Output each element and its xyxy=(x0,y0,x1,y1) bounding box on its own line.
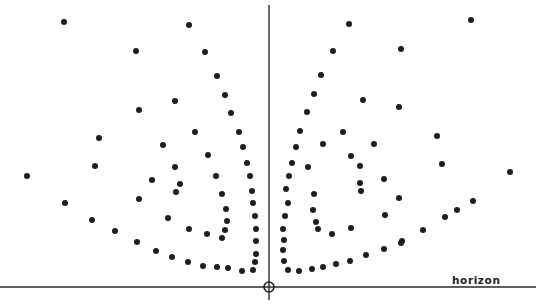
point-dot xyxy=(348,225,354,231)
point-dot xyxy=(252,213,258,219)
point-dot xyxy=(172,98,178,104)
point-dot xyxy=(333,261,339,267)
point-dot xyxy=(200,263,206,269)
point-dot xyxy=(253,226,259,232)
point-dot xyxy=(296,268,302,274)
point-dot xyxy=(381,176,387,182)
point-dot xyxy=(470,198,476,204)
point-dot xyxy=(305,164,311,170)
point-dot xyxy=(281,258,287,264)
point-dot xyxy=(282,213,288,219)
point-dot xyxy=(177,181,183,187)
point-dot xyxy=(396,104,402,110)
point-dot xyxy=(239,268,245,274)
point-dot xyxy=(363,252,369,258)
point-dot xyxy=(202,49,208,55)
point-dot xyxy=(96,135,102,141)
point-dot xyxy=(24,173,30,179)
point-dot xyxy=(398,46,404,52)
point-dot xyxy=(330,48,336,54)
point-dot xyxy=(315,226,321,232)
point-dot xyxy=(249,188,255,194)
point-dot xyxy=(286,173,292,179)
point-dot xyxy=(228,110,234,116)
point-dot xyxy=(247,173,253,179)
horizon-label: horizon xyxy=(452,274,500,286)
point-dot xyxy=(253,251,259,257)
point-dot xyxy=(280,226,286,232)
point-dot xyxy=(357,180,363,186)
point-dot xyxy=(223,206,229,212)
point-dot xyxy=(61,19,67,25)
point-dot xyxy=(153,248,159,254)
point-dot xyxy=(250,267,256,273)
point-dot xyxy=(89,217,95,223)
point-dot xyxy=(136,196,142,202)
point-dot xyxy=(219,191,225,197)
point-dot xyxy=(434,133,440,139)
dot-pattern-diagram: horizon xyxy=(0,0,548,305)
point-dot xyxy=(172,164,178,170)
point-dot xyxy=(134,239,140,245)
point-dot xyxy=(204,231,210,237)
point-dot xyxy=(281,237,287,243)
point-dot xyxy=(240,144,246,150)
point-dot xyxy=(213,173,219,179)
point-dot xyxy=(280,247,286,253)
point-dot xyxy=(285,267,291,273)
point-dot xyxy=(160,142,166,148)
point-dot xyxy=(283,186,289,192)
point-dot xyxy=(310,207,316,213)
point-dot xyxy=(186,226,192,232)
point-dot xyxy=(205,152,211,158)
point-dot xyxy=(382,212,388,218)
point-dot xyxy=(340,129,346,135)
point-dot xyxy=(313,219,319,225)
point-dot xyxy=(318,72,324,78)
point-dot xyxy=(253,238,259,244)
point-dot xyxy=(225,265,231,271)
point-dot xyxy=(224,218,230,224)
point-dot xyxy=(311,191,317,197)
point-dot xyxy=(289,160,295,166)
point-dot xyxy=(371,141,377,147)
point-dot xyxy=(112,228,118,234)
point-dot xyxy=(185,259,191,265)
point-dot xyxy=(222,92,228,98)
point-dot xyxy=(309,266,315,272)
point-dot xyxy=(285,200,291,206)
point-dot xyxy=(169,254,175,260)
point-dot xyxy=(252,259,258,265)
point-dot xyxy=(192,129,198,135)
point-dot xyxy=(92,163,98,169)
point-dot xyxy=(454,207,460,213)
point-dot xyxy=(439,161,445,167)
point-dot xyxy=(329,231,335,237)
point-dot xyxy=(173,189,179,195)
point-dot xyxy=(304,109,310,115)
point-dot xyxy=(136,107,142,113)
point-dot xyxy=(320,264,326,270)
point-dot xyxy=(346,21,352,27)
point-dot xyxy=(219,235,225,241)
point-dot xyxy=(62,200,68,206)
point-dot xyxy=(360,97,366,103)
point-dot xyxy=(186,22,192,28)
point-dot xyxy=(420,227,426,233)
point-dot xyxy=(311,91,317,97)
point-dot xyxy=(244,160,250,166)
point-dot xyxy=(347,258,353,264)
point-dot xyxy=(396,195,402,201)
point-dot xyxy=(165,215,171,221)
point-dot xyxy=(214,73,220,79)
point-dot xyxy=(214,264,220,270)
point-dot xyxy=(236,129,242,135)
point-dot xyxy=(250,200,256,206)
point-dot xyxy=(507,169,513,175)
point-dot xyxy=(357,163,363,169)
point-dot xyxy=(293,144,299,150)
point-dot xyxy=(320,141,326,147)
point-dot xyxy=(133,48,139,54)
point-dot xyxy=(398,240,404,246)
point-dot xyxy=(468,17,474,23)
